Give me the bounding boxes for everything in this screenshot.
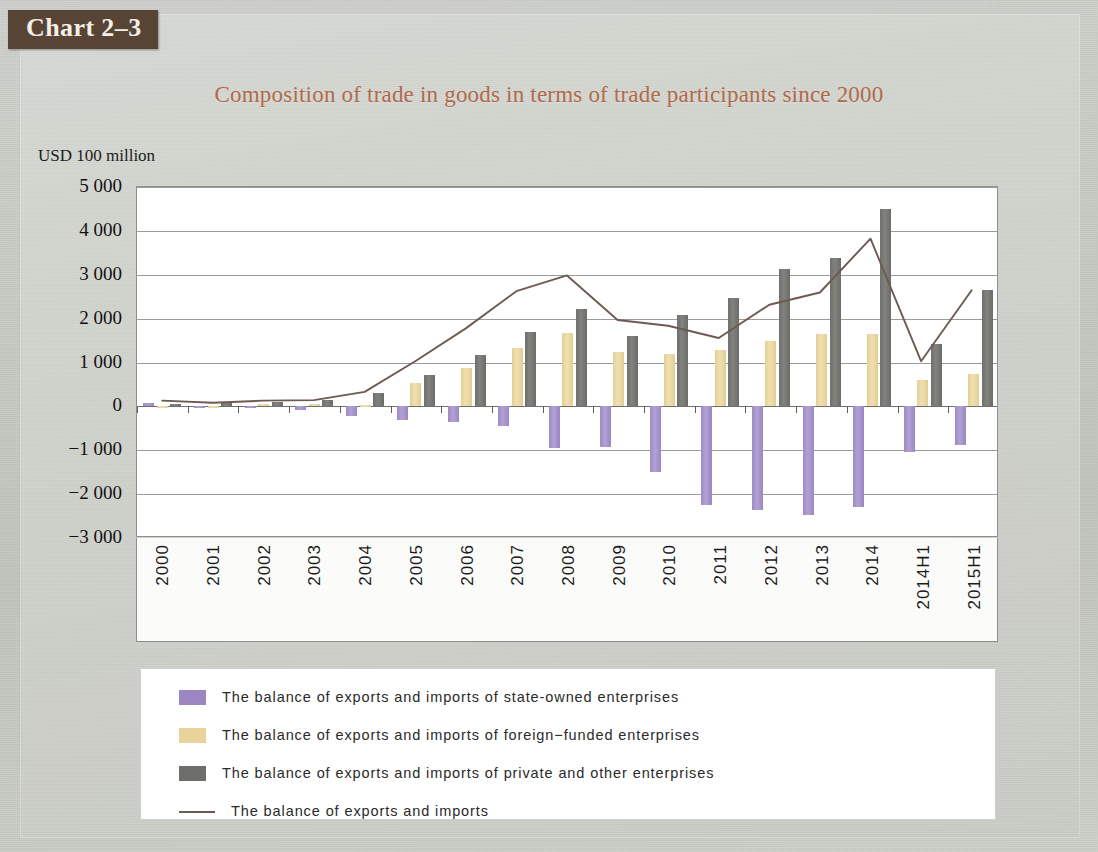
plot-area: [136, 186, 998, 537]
x-axis-label: 2000: [153, 544, 173, 586]
x-axis-tick: [695, 406, 696, 413]
x-axis-label: 2013: [813, 544, 833, 586]
line-marker-icon: [179, 804, 215, 819]
y-tick-label: 2 000: [79, 307, 122, 329]
y-tick-label: −2 000: [69, 482, 122, 504]
x-axis-label: 2009: [610, 544, 630, 586]
x-axis-label: 2007: [508, 544, 528, 586]
legend-item[interactable]: The balance of exports and imports of fo…: [179, 724, 700, 746]
x-axis-label: 2012: [762, 544, 782, 586]
x-axis-label: 2010: [660, 544, 680, 586]
x-axis-label: 2008: [559, 544, 579, 586]
x-axis-tick: [543, 406, 544, 413]
y-tick-label: −1 000: [69, 438, 122, 460]
x-axis-tick: [593, 406, 594, 413]
y-axis-tick-labels: 5 0004 0003 0002 0001 0000−1 000−2 000−3…: [0, 186, 130, 537]
legend-label: The balance of exports and imports: [231, 803, 489, 819]
y-tick-label: 0: [113, 394, 123, 416]
x-axis-tick: [745, 406, 746, 413]
legend-item[interactable]: The balance of exports and imports: [179, 800, 489, 822]
x-axis-tick: [441, 406, 442, 413]
y-tick-label: 5 000: [79, 175, 122, 197]
chart-legend: The balance of exports and imports of st…: [140, 668, 996, 820]
x-axis-label: 2004: [356, 544, 376, 586]
x-axis-tick: [898, 406, 899, 413]
x-axis-label: 2011: [711, 544, 731, 585]
legend-label: The balance of exports and imports of st…: [222, 689, 679, 705]
x-axis-label: 2014H1: [914, 544, 934, 610]
x-axis-tick: [391, 406, 392, 413]
swatch-purple-icon: [179, 690, 206, 705]
legend-label: The balance of exports and imports of pr…: [222, 765, 714, 781]
x-axis-label: 2005: [407, 544, 427, 586]
y-tick-label: 1 000: [79, 351, 122, 373]
x-axis-label-band: 2000200120022003200420052006200720082009…: [136, 538, 998, 642]
x-axis-label: 2002: [255, 544, 275, 586]
x-axis-tick: [137, 406, 138, 413]
legend-label: The balance of exports and imports of fo…: [222, 727, 700, 743]
plot-wrapper: [136, 186, 998, 537]
total-balance-line: [137, 187, 997, 537]
y-axis-unit-label: USD 100 million: [38, 146, 155, 166]
x-axis-label: 2001: [204, 544, 224, 586]
legend-item[interactable]: The balance of exports and imports of pr…: [179, 762, 714, 784]
x-axis-tick: [238, 406, 239, 413]
legend-item[interactable]: The balance of exports and imports of st…: [179, 686, 679, 708]
x-axis-tick: [796, 406, 797, 413]
x-axis-label: 2014: [863, 544, 883, 586]
chart-number-badge: Chart 2–3: [8, 10, 158, 49]
x-axis-label: 2006: [458, 544, 478, 586]
x-axis-tick: [644, 406, 645, 413]
y-tick-label: 4 000: [79, 219, 122, 241]
x-axis-tick: [188, 406, 189, 413]
x-axis-tick: [340, 406, 341, 413]
swatch-gray-icon: [179, 766, 206, 781]
x-axis-label: 2015H1: [965, 544, 985, 610]
y-tick-label: −3 000: [69, 526, 122, 548]
x-axis-tick: [948, 406, 949, 413]
swatch-tan-icon: [179, 728, 206, 743]
x-axis-tick: [492, 406, 493, 413]
chart-title: Composition of trade in goods in terms o…: [0, 82, 1098, 108]
y-tick-label: 3 000: [79, 263, 122, 285]
x-axis-tick: [847, 406, 848, 413]
x-axis-tick: [289, 406, 290, 413]
x-axis-label: 2003: [305, 544, 325, 586]
